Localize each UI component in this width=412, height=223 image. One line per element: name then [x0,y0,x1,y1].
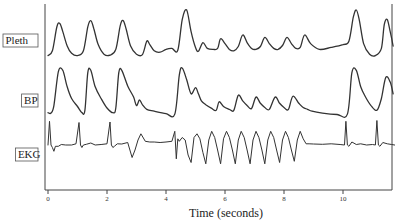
series-label-text: EKG [18,148,41,160]
series-label-text: Pleth [6,34,29,46]
series-label-pleth: Pleth [3,34,38,47]
x-tick-label: 8 [282,195,286,203]
trace-bp [48,68,393,118]
physiological-waveform-chart: 0246810 PlethBPEKG Time (seconds) [0,0,412,223]
series-label-ekg: EKG [15,148,40,161]
x-tick-label: 6 [223,195,227,203]
series-label-text: BP [24,94,37,106]
x-tick-label: 4 [164,195,168,203]
trace-pleth [48,10,393,57]
series-label-bp: BP [22,94,38,107]
trace-ekg [48,121,395,164]
x-tick-label: 10 [340,195,348,203]
x-axis-title: Time (seconds) [189,206,263,220]
x-tick-label: 0 [46,195,50,203]
x-tick-label: 2 [105,195,109,203]
